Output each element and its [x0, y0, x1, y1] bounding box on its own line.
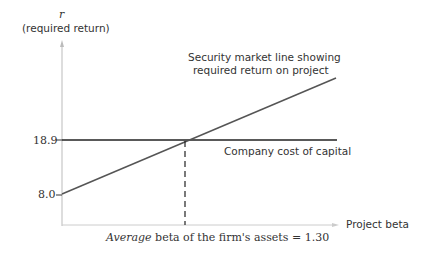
average-beta-annotation: Average beta of the firm's assets = 1.30 — [106, 231, 329, 244]
y-axis-arrow-icon — [60, 40, 64, 47]
y-axis-symbol: r — [59, 8, 64, 21]
sml-label-line1: Security market line showing — [188, 51, 341, 64]
average-italic: Average — [106, 231, 152, 244]
y-axis-label: (required return) — [22, 22, 110, 35]
x-axis-label: Project beta — [346, 218, 409, 231]
security-market-line — [62, 78, 336, 194]
x-axis-arrow-icon — [332, 223, 339, 227]
y-tick-18.9: 18.9 — [33, 134, 58, 147]
y-tick-8.0: 8.0 — [38, 188, 56, 201]
chart-canvas — [0, 0, 423, 254]
sml-label-line2: required return on project — [193, 64, 329, 77]
cost-of-capital-label: Company cost of capital — [224, 145, 351, 158]
average-beta-text: beta of the firm's assets = 1.30 — [152, 231, 330, 244]
